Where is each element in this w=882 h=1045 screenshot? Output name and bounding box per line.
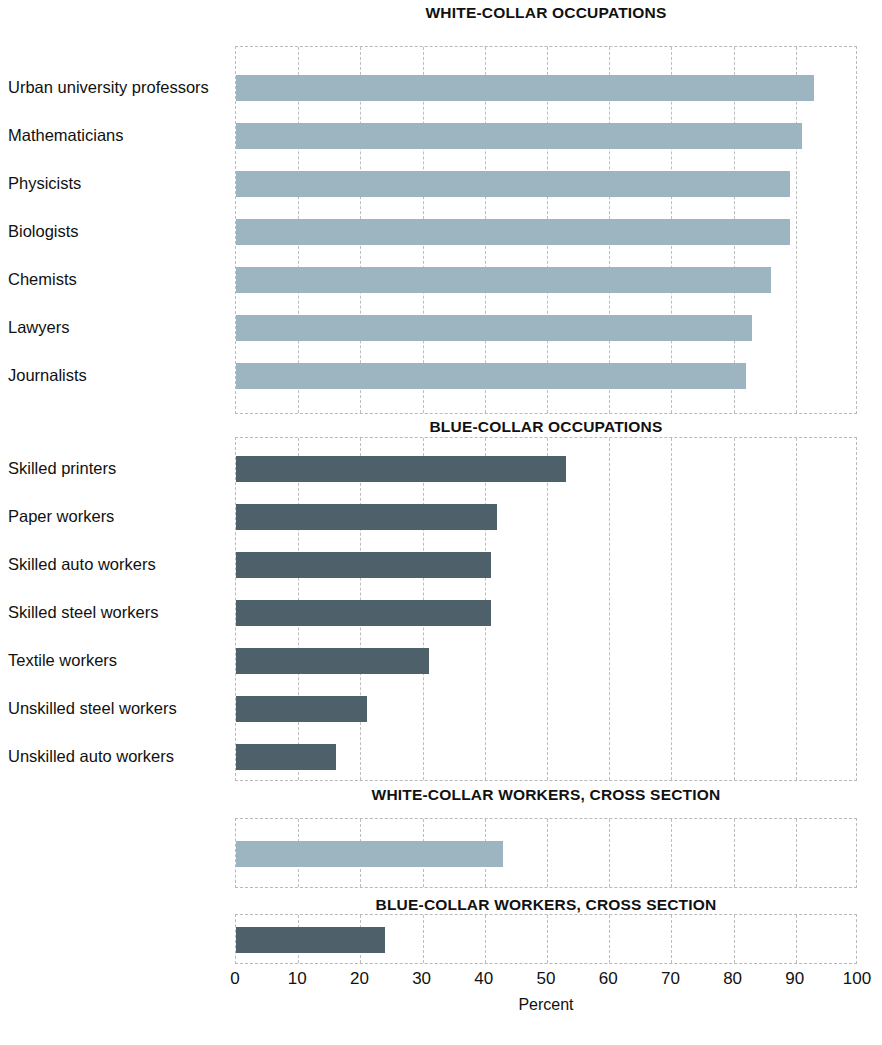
x-tick-label-30: 30	[412, 969, 431, 989]
bar-row	[236, 841, 503, 867]
plot-area-blue-collar-cross-section	[235, 914, 857, 964]
bar-row	[236, 552, 491, 578]
category-label: Chemists	[8, 271, 230, 288]
category-label: Paper workers	[8, 508, 230, 525]
x-axis: 0102030405060708090100	[235, 963, 857, 964]
x-tick-label-60: 60	[599, 969, 618, 989]
bar	[236, 267, 771, 293]
bars-white-collar-cross-section	[236, 819, 856, 887]
bar-row	[236, 648, 429, 674]
category-label: Unskilled auto workers	[8, 748, 230, 765]
x-tick-label-50: 50	[537, 969, 556, 989]
x-axis-title: Percent	[235, 996, 857, 1014]
x-tick-label-100: 100	[843, 969, 871, 989]
category-label: Lawyers	[8, 319, 230, 336]
category-label: Textile workers	[8, 652, 230, 669]
bar-row	[236, 363, 746, 389]
bars-blue-collar-cross-section	[236, 915, 856, 963]
bar-row	[236, 315, 752, 341]
x-tick-label-70: 70	[661, 969, 680, 989]
bar	[236, 600, 491, 626]
x-tick-label-20: 20	[350, 969, 369, 989]
category-label: Mathematicians	[8, 127, 230, 144]
category-label: Skilled steel workers	[8, 604, 230, 621]
bar-row	[236, 456, 566, 482]
bar-row	[236, 267, 771, 293]
bar	[236, 456, 566, 482]
bar-row	[236, 123, 802, 149]
bar	[236, 927, 385, 953]
panel-title-white-collar-cross-section: WHITE-COLLAR WORKERS, CROSS SECTION	[235, 786, 857, 804]
category-label: Physicists	[8, 175, 230, 192]
bar	[236, 696, 367, 722]
category-label: Skilled printers	[8, 460, 230, 477]
bar-row	[236, 744, 336, 770]
bar	[236, 552, 491, 578]
x-tick-label-90: 90	[785, 969, 804, 989]
bar	[236, 363, 746, 389]
bar-row	[236, 171, 790, 197]
x-tick-label-40: 40	[474, 969, 493, 989]
panel-title-blue-collar: BLUE-COLLAR OCCUPATIONS	[235, 418, 857, 436]
bar	[236, 75, 814, 101]
bar-row	[236, 927, 385, 953]
bars-blue-collar	[236, 438, 856, 780]
category-label: Unskilled steel workers	[8, 700, 230, 717]
category-label: Journalists	[8, 367, 230, 384]
bar	[236, 123, 802, 149]
bar-row	[236, 696, 367, 722]
x-tick-label-80: 80	[723, 969, 742, 989]
bar	[236, 504, 497, 530]
chart-figure: WHITE-COLLAR OCCUPATIONS Urban universit…	[0, 0, 882, 1045]
panel-title-blue-collar-cross-section: BLUE-COLLAR WORKERS, CROSS SECTION	[235, 896, 857, 914]
x-tick-label-10: 10	[288, 969, 307, 989]
plot-area-white-collar	[235, 46, 857, 414]
bar-row	[236, 75, 814, 101]
plot-area-white-collar-cross-section	[235, 818, 857, 888]
bar	[236, 171, 790, 197]
plot-area-blue-collar	[235, 437, 857, 781]
panel-title-white-collar: WHITE-COLLAR OCCUPATIONS	[235, 4, 857, 22]
bar-row	[236, 504, 497, 530]
bar-row	[236, 600, 491, 626]
category-label: Skilled auto workers	[8, 556, 230, 573]
bar	[236, 315, 752, 341]
category-label: Urban university professors	[8, 79, 230, 96]
bars-white-collar	[236, 47, 856, 413]
category-label: Biologists	[8, 223, 230, 240]
bar	[236, 219, 790, 245]
bar	[236, 841, 503, 867]
bar-row	[236, 219, 790, 245]
bar	[236, 744, 336, 770]
x-tick-label-0: 0	[230, 969, 239, 989]
bar	[236, 648, 429, 674]
